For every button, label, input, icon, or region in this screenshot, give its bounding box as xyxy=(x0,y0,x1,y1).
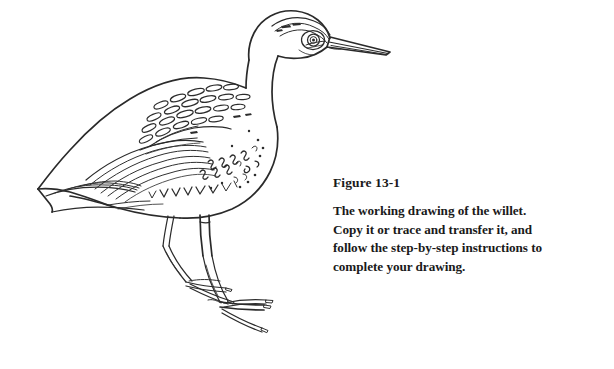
body-outline xyxy=(38,78,278,218)
figure-number-heading: Figure 13-1 xyxy=(333,176,591,191)
head-group xyxy=(249,11,330,60)
wing-feathers xyxy=(86,126,231,202)
breast-markings xyxy=(200,130,264,189)
beak-icon xyxy=(327,37,390,55)
caption-line-1: The working drawing of the willet. xyxy=(333,202,591,221)
caption-line-3: follow the step-by-step instructions to xyxy=(333,239,591,258)
caption-line-2: Copy it or trace and transfer it, and xyxy=(333,221,591,240)
figure-caption: Figure 13-1 The working drawing of the w… xyxy=(333,176,591,277)
feet-group xyxy=(186,280,273,333)
figure-caption-text: The working drawing of the willet. Copy … xyxy=(333,202,591,277)
caption-line-4: complete your drawing. xyxy=(333,258,591,277)
legs-group xyxy=(163,215,228,302)
tail-group xyxy=(38,181,163,212)
neck-group xyxy=(246,56,278,127)
scapular-markings xyxy=(138,84,251,145)
figure-page: Figure 13-1 The working drawing of the w… xyxy=(0,0,614,369)
flank-chevrons xyxy=(149,181,237,198)
